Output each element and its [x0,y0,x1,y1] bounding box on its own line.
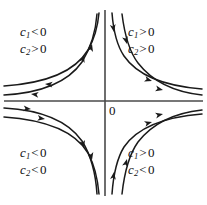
quadrant-label-top-right-c2: c2>0 [128,41,155,58]
quadrant-label-top-right-c1: c1>0 [128,24,155,41]
quadrant-label-bottom-right: c1>0 c2<0 [128,145,155,178]
quadrant-label-bottom-left-c2: c2<0 [20,162,47,179]
trajectory-bottom-left-inner [4,117,99,194]
quadrant-label-bottom-left: c1<0 c2<0 [20,145,47,178]
quadrant-label-top-left: c1<0 c2>0 [20,24,47,57]
trajectory-top-left-inner [4,13,99,86]
quadrant-label-top-left-c1: c1<0 [20,24,47,41]
quadrant-label-bottom-right-c2: c2<0 [128,162,155,179]
trajectory-bottom-right-inner [112,114,202,194]
trajectory-top-right-inner [112,13,202,89]
origin-label: 0 [109,103,116,119]
quadrant-label-top-left-c2: c2>0 [20,41,47,58]
quadrant-label-top-right: c1>0 c2>0 [128,24,155,57]
quadrant-label-bottom-left-c1: c1<0 [20,145,47,162]
phase-portrait-figure: c1<0 c2>0 c1>0 c2>0 c1<0 c2<0 c1>0 c2<0 … [0,0,207,205]
quadrant-label-bottom-right-c1: c1>0 [128,145,155,162]
trajectory-bottom-left-outer [4,108,97,194]
